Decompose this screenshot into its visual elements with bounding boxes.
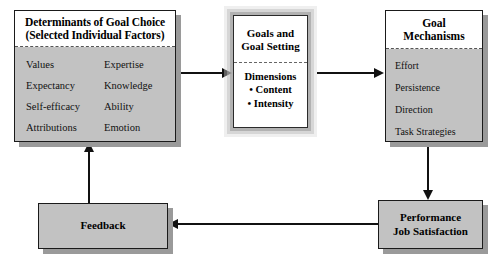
feedback-label: Feedback [80, 219, 125, 232]
mechanism-item: Effort [386, 55, 482, 77]
factor-label: Attributions [15, 122, 98, 133]
performance-label-line1: Performance [400, 211, 461, 224]
determinants-header-line2: (Selected Individual Factors) [18, 29, 172, 42]
determinants-header-line1: Determinants of Goal Choice [18, 16, 172, 29]
factor-row: Attributions Emotion [15, 117, 175, 138]
dimensions-subheading: Dimensions [234, 70, 307, 84]
goal-mechanisms-box: Goal Mechanisms Effort Persistence Direc… [385, 10, 483, 142]
factor-row: Self-efficacy Ability [15, 96, 175, 117]
determinants-body: Values Expertise Expectancy Knowledge Se… [15, 47, 175, 177]
performance-job-satisfaction-box: Performance Job Satisfaction [378, 200, 483, 249]
performance-label-wrap: Performance Job Satisfaction [379, 201, 482, 248]
connector-goals-to-mechanisms [317, 72, 375, 74]
goals-body: Dimensions • Content • Intensity [234, 63, 307, 112]
feedback-box: Feedback [38, 203, 168, 249]
mechanisms-header-line1: Goal [389, 17, 479, 30]
determinants-of-goal-choice-box: Determinants of Goal Choice (Selected In… [14, 10, 176, 142]
mechanisms-header: Goal Mechanisms [386, 11, 482, 49]
goal-setting-diagram: Determinants of Goal Choice (Selected In… [0, 0, 498, 267]
arrow-right-icon [374, 68, 384, 78]
goals-and-goal-setting-box: Goals and Goal Setting Dimensions • Cont… [233, 15, 308, 128]
arrow-right-icon [222, 68, 232, 78]
goals-header-line1: Goals and [236, 27, 305, 40]
factor-row: Values Expertise [15, 54, 175, 75]
arrow-left-icon [168, 219, 178, 229]
mechanism-item: Persistence [386, 77, 482, 99]
factor-label: Emotion [98, 122, 175, 133]
determinants-header: Determinants of Goal Choice (Selected In… [15, 11, 175, 47]
factor-label: Knowledge [98, 80, 175, 91]
mechanism-item: Task Strategies [386, 121, 482, 143]
determinants-factor-grid: Values Expertise Expectancy Knowledge Se… [15, 47, 175, 138]
factor-label: Expertise [98, 59, 175, 70]
mechanisms-header-line2: Mechanisms [389, 30, 479, 43]
factor-label: Expectancy [15, 80, 98, 91]
dimension-item: • Content [234, 83, 307, 97]
performance-label-line2: Job Satisfaction [393, 225, 468, 238]
mechanisms-body: Effort Persistence Direction Task Strate… [386, 49, 482, 179]
connector-determinants-to-goals [176, 72, 224, 74]
factor-row: Expectancy Knowledge [15, 75, 175, 96]
factor-label: Ability [98, 101, 175, 112]
goals-header: Goals and Goal Setting [234, 16, 307, 63]
feedback-label-wrap: Feedback [39, 204, 167, 248]
dimension-item: • Intensity [234, 97, 307, 111]
factor-label: Values [15, 59, 98, 70]
mechanisms-list: Effort Persistence Direction Task Strate… [386, 49, 482, 143]
arrow-down-icon [423, 190, 433, 200]
goals-header-line2: Goal Setting [236, 40, 305, 53]
connector-performance-to-feedback [177, 223, 378, 225]
factor-label: Self-efficacy [15, 101, 98, 112]
mechanism-item: Direction [386, 99, 482, 121]
